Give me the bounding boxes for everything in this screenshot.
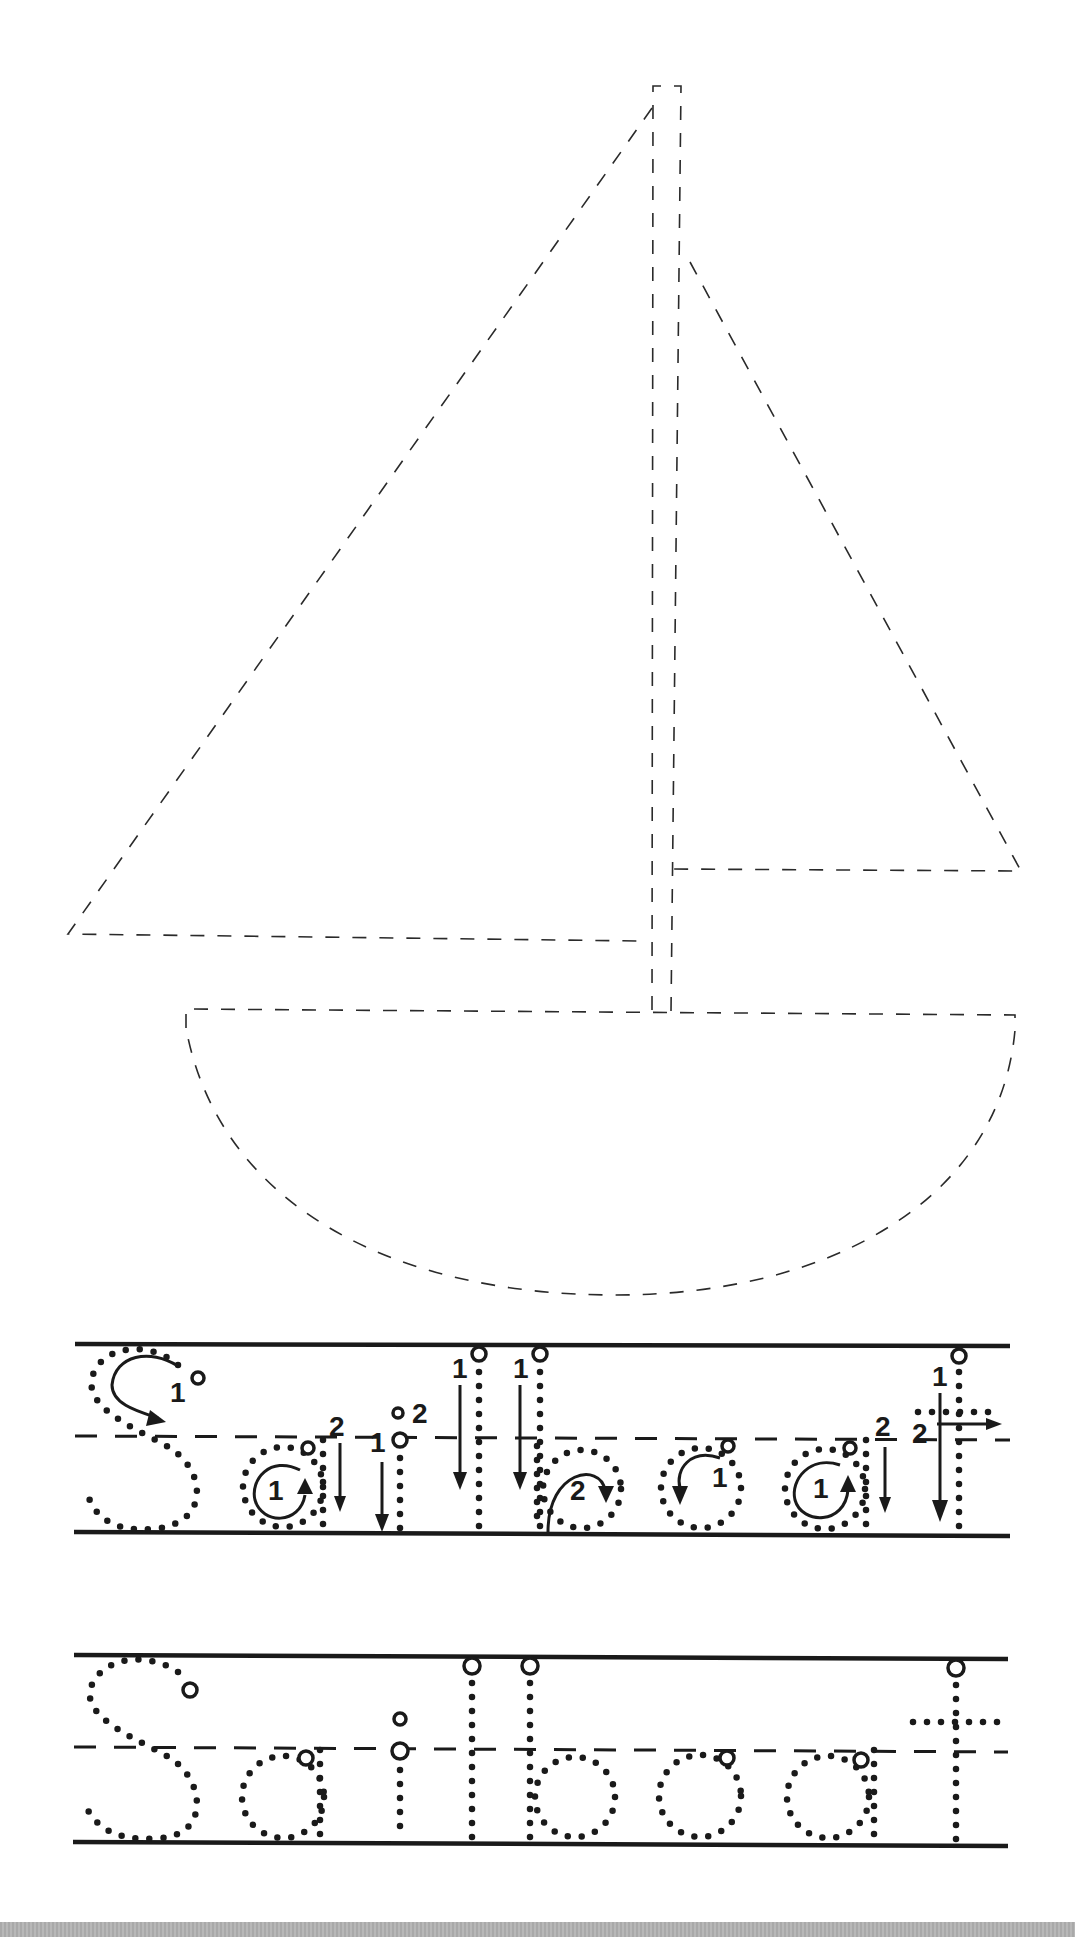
letter-i-guided[interactable]: 1 2	[370, 1398, 428, 1532]
base-line	[73, 1842, 1008, 1846]
letter-t-trace[interactable]	[913, 1660, 998, 1840]
letter-a-trace-2[interactable]	[787, 1750, 874, 1840]
stroke-number: 2	[412, 1398, 428, 1429]
stroke-number: 1	[370, 1427, 386, 1458]
stroke-number: 2	[875, 1411, 891, 1442]
letter-s-guided[interactable]: 1	[88, 1349, 204, 1529]
mast-outline	[652, 86, 681, 1012]
main-sail-outline	[68, 108, 652, 941]
stroke-number: 1	[170, 1377, 186, 1408]
base-line	[74, 1532, 1010, 1536]
stroke-number: 2	[329, 1411, 345, 1442]
stroke-number: 1	[268, 1475, 284, 1506]
letter-o-trace[interactable]	[659, 1751, 741, 1837]
letter-a-guided[interactable]: 1 2	[243, 1411, 346, 1530]
letter-s-trace[interactable]	[84, 1660, 197, 1839]
stroke-number: 1	[513, 1353, 529, 1384]
letter-a-guided-2[interactable]: 1 2	[785, 1411, 891, 1530]
scan-edge-bar	[0, 1922, 1075, 1937]
trace-row	[73, 1655, 1008, 1846]
hull-outline	[186, 1009, 1015, 1295]
letter-t-guided[interactable]: 1 2	[912, 1349, 1002, 1530]
letter-a-trace[interactable]	[242, 1750, 324, 1840]
mid-dashed-line	[75, 1436, 1010, 1440]
mid-dashed-line	[74, 1747, 1008, 1752]
letter-b-trace[interactable]	[535, 1757, 615, 1837]
stroke-number: 1	[712, 1462, 728, 1493]
letter-i-trace[interactable]	[392, 1713, 408, 1840]
stroke-number: 2	[912, 1418, 928, 1449]
top-line	[74, 1655, 1008, 1659]
letter-o-guided[interactable]: 1	[661, 1440, 741, 1528]
worksheet-page: Sailboat 1	[0, 0, 1075, 1937]
jib-sail-outline	[671, 262, 1021, 871]
stroke-number: 1	[813, 1473, 829, 1504]
guided-row: 1 1 2 1 2 1	[74, 1344, 1010, 1536]
sailboat-drawing	[68, 86, 1021, 1295]
stroke-number: 1	[452, 1353, 468, 1384]
letter-b-guided[interactable]: 2	[537, 1446, 621, 1532]
stroke-number: 1	[932, 1361, 948, 1392]
stroke-number: 2	[570, 1475, 586, 1506]
